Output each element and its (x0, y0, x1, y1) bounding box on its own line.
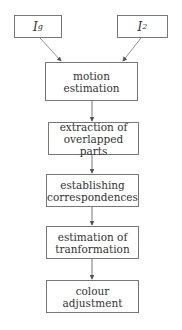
step-line: extraction of (49, 121, 138, 133)
step-line: tranformation (55, 243, 129, 255)
step-extraction: extraction ofoverlapped parts (48, 122, 139, 155)
step-line: adjustment (63, 297, 123, 309)
step-line: colour (63, 285, 123, 297)
step-motion-estimation: motionestimation (45, 62, 138, 101)
step-line: overlapped parts (49, 133, 138, 157)
step-transformation: estimation oftranformation (46, 226, 139, 259)
step-correspondences: establishingcorrespondences (46, 174, 139, 207)
step-line: correspondences (47, 191, 138, 203)
input-subscript: 2 (142, 21, 147, 33)
step-line: estimation (63, 82, 119, 94)
step-line: establishing (47, 179, 138, 191)
step-line: estimation of (55, 231, 129, 243)
input-box-ig: Ig (14, 15, 62, 38)
step-colour-adjustment: colouradjustment (46, 280, 139, 313)
step-line: motion (63, 70, 119, 82)
input-box-i2: I2 (117, 15, 168, 38)
input-subscript: g (38, 21, 43, 33)
